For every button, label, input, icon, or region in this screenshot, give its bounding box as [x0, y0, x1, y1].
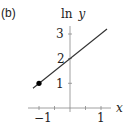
y-axis-label-var: y [78, 7, 86, 21]
y-tick-label-1: 1 [56, 77, 64, 91]
x-tick-label-neg1: −1 [34, 111, 52, 125]
x-axis-label: x [116, 101, 123, 115]
chart: −1 1 1 2 3 x ln y [0, 0, 128, 125]
x-tick-label-1: 1 [97, 111, 105, 125]
data-point [36, 81, 41, 86]
y-tick-label-3: 3 [56, 27, 64, 41]
y-axis-label-fn: ln [61, 7, 73, 21]
y-axis-label: ln y [61, 4, 86, 21]
